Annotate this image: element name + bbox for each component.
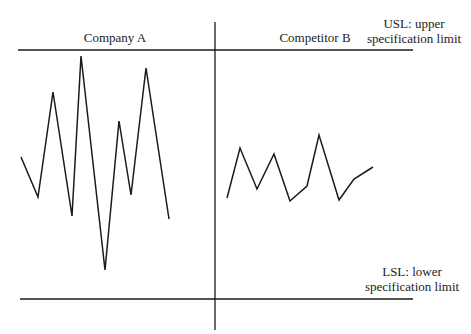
spec-limit-diagram: Company A Competitor B USL: upper specif…	[0, 0, 471, 334]
competitor-b-label: Competitor B	[279, 30, 350, 45]
company-a-label: Company A	[84, 30, 147, 45]
lsl-label-line2: specification limit	[365, 279, 460, 294]
competitor-b-line	[227, 135, 373, 201]
lsl-label-line1: LSL: lower	[382, 264, 442, 279]
usl-label-line2: specification limit	[367, 31, 462, 46]
company-a-line	[21, 56, 169, 270]
usl-label-line1: USL: upper	[383, 16, 445, 31]
